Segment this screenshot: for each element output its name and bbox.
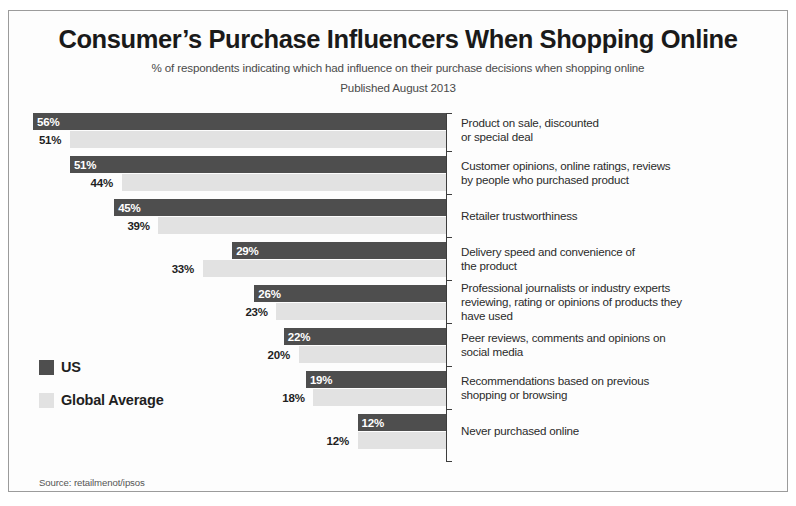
bar-rect: 29% [232,242,446,259]
bar-rect: 39% [158,217,446,234]
bar-global: 51% [9,131,446,148]
category-label-line: Retailer trustworthiness [461,209,761,223]
legend-swatch-icon [39,360,54,375]
bar-value-label: 45% [118,202,140,214]
bar-value-label: 12% [362,417,384,429]
category-label-line: or special deal [461,130,761,144]
category-label-line: Product on sale, discounted [461,116,761,130]
bar-value-label: 20% [268,349,290,361]
bar-value-label: 51% [39,134,61,146]
bar-value-label: 12% [327,435,349,447]
category-tick [446,366,452,367]
bar-rect: 26% [254,285,446,302]
category-tick [446,194,452,195]
chart-published-date: Published August 2013 [9,81,787,94]
category-tick [446,323,452,324]
bar-value-label: 26% [258,288,280,300]
legend-swatch-icon [39,393,54,408]
bar-pair: 29%33% [9,242,446,280]
category-label: Customer opinions, online ratings, revie… [461,159,761,187]
category-label-line: have used [461,309,761,323]
bar-rect: 19% [306,371,446,388]
legend-item[interactable]: US [39,359,164,375]
category-label: Product on sale, discountedor special de… [461,116,761,144]
chart-header: Consumer’s Purchase Influencers When Sho… [9,11,787,94]
bar-value-label: 22% [288,331,310,343]
category-label-line: by people who purchased product [461,173,761,187]
category-label-line: Delivery speed and convenience of [461,245,761,259]
bar-rect: 51% [70,131,446,148]
category-label-line: reviewing, rating or opinions of product… [461,295,761,309]
category-label: Retailer trustworthiness [461,209,761,223]
category-label-line: shopping or browsing [461,388,761,402]
bar-us: 29% [9,242,446,259]
bar-rect: 56% [33,113,446,130]
category-label-line: the product [461,259,761,273]
category-axis-end-tick [446,461,452,462]
category-label: Professional journalists or industry exp… [461,281,761,323]
category-tick [446,280,452,281]
bar-rect: 20% [299,346,447,363]
bar-us: 45% [9,199,446,216]
bar-pair: 56%51% [9,113,446,151]
bar-value-label: 39% [127,220,149,232]
category-label-line: Peer reviews, comments and opinions on [461,331,761,345]
category-label: Delivery speed and convenience ofthe pro… [461,245,761,273]
bar-us: 56% [9,113,446,130]
bar-value-label: 51% [74,159,96,171]
bar-value-label: 44% [91,177,113,189]
bar-rect: 23% [276,303,446,320]
bar-value-label: 56% [37,116,59,128]
category-tick [446,409,452,410]
bar-us: 26% [9,285,446,302]
bar-global: 44% [9,174,446,191]
chart-subtitle: % of respondents indicating which had in… [9,61,787,74]
bar-pair: 26%23% [9,285,446,323]
bar-us: 22% [9,328,446,345]
category-tick [446,237,452,238]
legend-item[interactable]: Global Average [39,392,164,408]
source-note: Source: retailmenot/ipsos [39,477,145,488]
category-label-line: Customer opinions, online ratings, revie… [461,159,761,173]
category-axis-end-tick [446,113,452,114]
category-label: Peer reviews, comments and opinions onso… [461,331,761,359]
category-tick [446,151,452,152]
legend-label: Global Average [61,392,164,408]
chart-legend: USGlobal Average [39,359,164,425]
legend-label: US [61,359,81,375]
bar-pair: 45%39% [9,199,446,237]
bar-value-label: 33% [172,263,194,275]
bar-rect: 33% [203,260,446,277]
bar-global: 12% [9,432,446,449]
bar-pair: 51%44% [9,156,446,194]
category-label-line: Recommendations based on previous [461,374,761,388]
bar-global: 23% [9,303,446,320]
bar-global: 39% [9,217,446,234]
bar-value-label: 19% [310,374,332,386]
bar-rect: 51% [70,156,446,173]
chart-frame: Consumer’s Purchase Influencers When Sho… [8,10,788,492]
bar-rect: 18% [313,389,446,406]
page-title: Consumer’s Purchase Influencers When Sho… [9,25,787,53]
bar-rect: 44% [122,174,447,191]
category-label: Never purchased online [461,424,761,438]
bar-value-label: 18% [282,392,304,404]
category-label-line: Never purchased online [461,424,761,438]
bar-rect: 22% [284,328,446,345]
bar-value-label: 29% [236,245,258,257]
bar-rect: 12% [358,414,447,431]
bar-us: 51% [9,156,446,173]
category-label: Recommendations based on previousshoppin… [461,374,761,402]
bar-value-label: 23% [245,306,267,318]
bar-rect: 45% [114,199,446,216]
bar-global: 33% [9,260,446,277]
bar-rect: 12% [358,432,447,449]
category-label-line: social media [461,345,761,359]
category-label-line: Professional journalists or industry exp… [461,281,761,295]
